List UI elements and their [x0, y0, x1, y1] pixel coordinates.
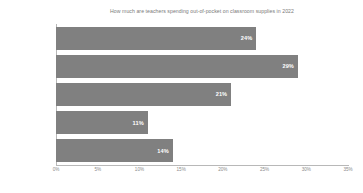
bar-value-label: 21% — [216, 91, 228, 97]
bar-chart: How much are teachers spending out-of-po… — [0, 0, 363, 193]
plot-area: $1 - $24924%$250 - $49929%$500 - $74921%… — [56, 24, 348, 165]
bar[interactable]: 21% — [56, 83, 231, 106]
x-axis-tick-label: 25% — [260, 167, 269, 173]
x-axis-tick-label: 30% — [302, 167, 311, 173]
bar-row: $1,00014% — [56, 137, 348, 165]
bar-row: $750 - $99911% — [56, 109, 348, 137]
bar[interactable]: 24% — [56, 27, 256, 50]
x-axis-tick-label: 10% — [135, 167, 144, 173]
x-axis-tick-label: 35% — [343, 167, 352, 173]
bar-value-label: 14% — [157, 148, 169, 154]
x-axis-tick-label: 20% — [218, 167, 227, 173]
x-axis-tick-label: 5% — [94, 167, 101, 173]
bar-row: $1 - $24924% — [56, 24, 348, 52]
bar[interactable]: 11% — [56, 111, 148, 134]
bar-value-label: 29% — [282, 63, 294, 69]
x-axis-tick-label: 15% — [177, 167, 186, 173]
bar[interactable]: 14% — [56, 139, 173, 162]
bar-value-label: 11% — [133, 120, 144, 126]
bar[interactable]: 29% — [56, 55, 298, 78]
bar-row: $250 - $49929% — [56, 52, 348, 80]
x-axis-tick-label: 0% — [53, 167, 60, 173]
bar-value-label: 24% — [241, 35, 253, 41]
chart-title: How much are teachers spending out-of-po… — [56, 8, 348, 15]
bar-row: $500 - $74921% — [56, 80, 348, 108]
